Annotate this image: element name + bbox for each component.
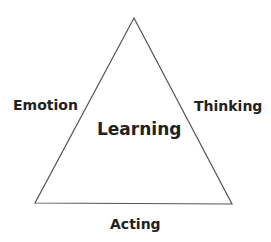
label-acting: Acting <box>110 217 161 231</box>
learning-triangle-diagram: Emotion Thinking Learning Acting <box>0 0 271 242</box>
label-thinking: Thinking <box>194 99 262 113</box>
label-emotion: Emotion <box>13 98 78 112</box>
label-learning: Learning <box>97 121 181 138</box>
